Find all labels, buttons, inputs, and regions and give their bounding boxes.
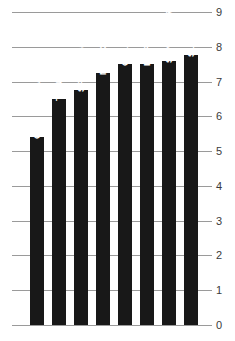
bar-label-text: TIJUANA [54,61,64,103]
bar-mexicali[interactable]: MEXICALI [96,73,110,325]
bar-label-text: EL PASO [142,26,152,68]
bar-ciudad-juarez[interactable]: CIUDAD JUAREZ [30,137,44,325]
bar-label-calexico: CALEXICO [120,18,130,68]
bar-label-sls-az: SLS-AZ [186,24,196,60]
bar-label-text: CALEXICO [120,18,130,68]
bar-label-mexicali: MEXICALI [98,30,108,77]
bar-calexico[interactable]: CALEXICO [118,64,132,325]
bar-label-san-luis-rc: SAN LUIS RC [164,3,174,65]
bar-label-tijuana: TIJUANA [54,61,64,103]
bar-label-san-diego: SAN DIEGO [76,40,86,94]
bar-label-ciudad-juarez: CIUDAD JUAREZ [32,63,42,141]
bar-sls-az[interactable]: SLS-AZ [184,55,198,325]
bar-el-paso[interactable]: EL PASO [140,64,154,325]
bar-label-text: SAN DIEGO [76,40,86,94]
bar-label-text: CIUDAD JUAREZ [32,63,42,141]
bars-group: CIUDAD JUAREZTIJUANASAN DIEGOMEXICALICAL… [0,0,235,341]
bar-tijuana[interactable]: TIJUANA [52,99,66,325]
bar-label-text: MEXICALI [98,30,108,77]
bar-san-luis-rc[interactable]: SAN LUIS RC [162,61,176,325]
bar-label-text: SAN LUIS RC [164,3,174,65]
bar-label-text: SLS-AZ [186,24,196,60]
bar-label-el-paso: EL PASO [142,26,152,68]
bar-san-diego[interactable]: SAN DIEGO [74,90,88,325]
bar-chart: 0123456789 CIUDAD JUAREZTIJUANASAN DIEGO… [0,0,235,341]
